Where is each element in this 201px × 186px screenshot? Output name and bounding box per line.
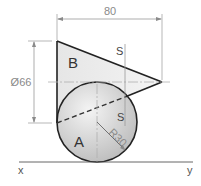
label-section-top: S <box>116 45 123 57</box>
dim-80-text: 80 <box>104 5 116 17</box>
axis-label-x: x <box>18 164 24 176</box>
axis-label-y: y <box>187 164 193 176</box>
label-section-bottom: S <box>117 111 124 123</box>
label-region-a: A <box>74 133 84 150</box>
drawing-svg: 80 Ø66 R30 B A S S x y <box>0 0 201 186</box>
dim-dia-text: Ø66 <box>11 76 32 88</box>
technical-drawing: 80 Ø66 R30 B A S S x y <box>0 0 201 186</box>
label-region-b: B <box>68 54 78 71</box>
